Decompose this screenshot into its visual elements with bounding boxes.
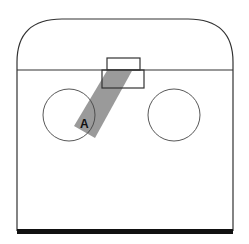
upper-small-box [107,58,140,70]
right-circle [148,89,200,141]
base-bar [17,229,233,234]
position-a-label: A [80,117,89,131]
court-diagram: A [0,0,249,244]
outer-outline [17,19,233,231]
